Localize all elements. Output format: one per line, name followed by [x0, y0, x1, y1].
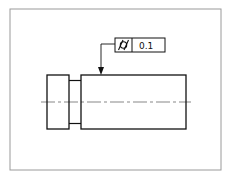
technical-drawing: 0.1	[0, 0, 228, 178]
leader-arrowhead	[98, 67, 104, 75]
drawing-canvas: 0.1	[0, 0, 228, 178]
feature-control-frame: 0.1	[115, 38, 165, 52]
drawing-border	[10, 9, 221, 170]
tolerance-value: 0.1	[139, 41, 153, 51]
leader-line	[101, 44, 115, 69]
